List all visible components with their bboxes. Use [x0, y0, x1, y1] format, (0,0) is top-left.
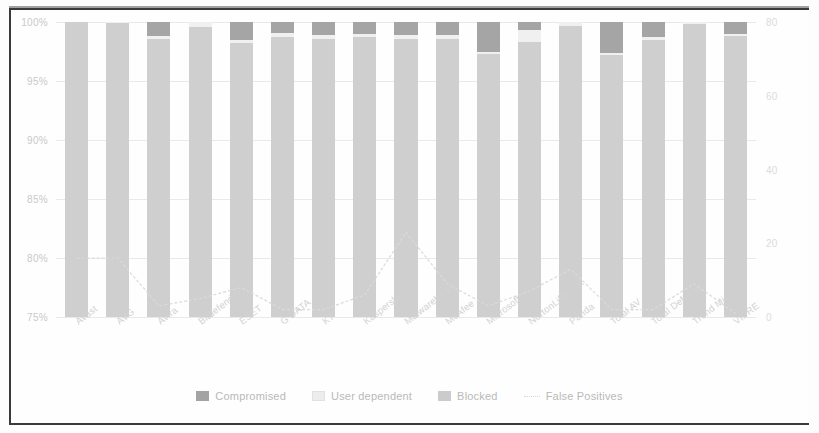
y-axis-tick-right: 80	[766, 17, 778, 28]
y-axis-tick-right: 40	[766, 164, 778, 175]
legend-item-blocked: Blocked	[438, 390, 498, 402]
y-axis-tick-right: 20	[766, 238, 778, 249]
false-positives-line	[56, 22, 756, 317]
y-axis-tick-right: 0	[766, 312, 772, 323]
x-axis-labels: AvastAVGAviraBitdefenderESETG DATAK7Kasp…	[56, 318, 756, 388]
y-axis-tick-right: 60	[766, 90, 778, 101]
legend-label-user-dependent: User dependent	[331, 390, 412, 402]
legend-label-blocked: Blocked	[457, 390, 498, 402]
blocked-swatch	[438, 391, 451, 401]
y-axis-tick-left: 80%	[27, 253, 48, 264]
plot-area: 100%95%90%85%80%75% 806040200	[56, 22, 756, 317]
user-dependent-swatch	[312, 391, 325, 401]
compromised-swatch	[196, 391, 209, 401]
y-axis-tick-left: 85%	[27, 194, 48, 205]
y-axis-tick-left: 75%	[27, 312, 48, 323]
y-axis-tick-left: 90%	[27, 135, 48, 146]
chart-screenshot: 100%95%90%85%80%75% 806040200 AvastAVGAv…	[0, 0, 819, 433]
y-axis-tick-left: 95%	[27, 76, 48, 87]
legend-label-false-positives: False Positives	[546, 390, 623, 402]
legend-label-compromised: Compromised	[215, 390, 286, 402]
legend-item-false-positives: False Positives	[524, 390, 623, 402]
y-axis-tick-left: 100%	[21, 17, 48, 28]
false-positives-line-swatch	[524, 396, 540, 397]
legend-item-compromised: Compromised	[196, 390, 286, 402]
legend-item-user-dependent: User dependent	[312, 390, 412, 402]
chart-legend: Compromised User dependent Blocked False…	[0, 390, 819, 402]
